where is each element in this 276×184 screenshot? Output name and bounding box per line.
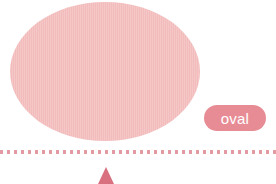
shape-label-text: oval <box>221 111 249 126</box>
dotted-divider <box>0 150 276 154</box>
triangle-up-icon <box>98 167 114 184</box>
shape-label-pill[interactable]: oval <box>204 105 266 131</box>
diagram-canvas: oval <box>0 0 276 184</box>
oval-shape[interactable] <box>10 2 200 141</box>
